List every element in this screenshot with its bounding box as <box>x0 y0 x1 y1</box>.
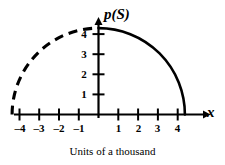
y-tick-label-2: 2 <box>78 68 90 80</box>
y-axis-title: p(S) <box>104 6 130 23</box>
y-tick-label-4: 4 <box>78 28 90 40</box>
y-axis-arrowhead <box>95 17 103 25</box>
x-tick-label-neg1: –1 <box>69 122 89 134</box>
x-tick-label-4: 4 <box>169 122 186 134</box>
x-axis-title: x <box>207 104 215 121</box>
x-tick-label-3: 3 <box>149 122 166 134</box>
y-tick-label-3: 3 <box>78 48 90 60</box>
probability-density-figure: p(S) x –4 –3 –2 –1 1 2 3 4 1 2 3 4 Units… <box>0 0 225 165</box>
y-tick-label-1: 1 <box>78 88 90 100</box>
figure-caption: Units of a thousand <box>0 145 225 157</box>
x-tick-label-neg4: –4 <box>10 122 30 134</box>
plot-canvas <box>0 0 225 165</box>
x-tick-label-neg2: –2 <box>49 122 69 134</box>
x-tick-label-neg3: –3 <box>29 122 49 134</box>
x-tick-label-1: 1 <box>110 122 127 134</box>
x-tick-label-2: 2 <box>130 122 147 134</box>
curve-right-solid <box>99 28 185 114</box>
